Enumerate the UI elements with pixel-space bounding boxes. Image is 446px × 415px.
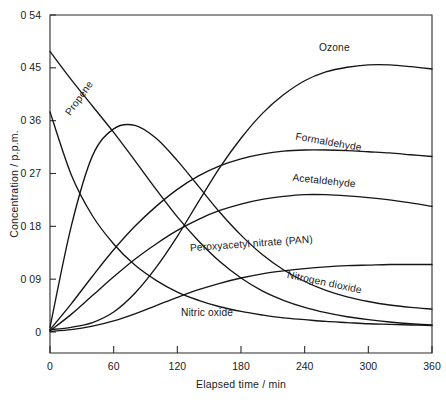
y-axis-title: Concentration / p.p.m. [8,130,20,238]
curve-label-peroxyacetyl-nitrate-pan: Peroxyacetyl nitrate (PAN) [190,234,314,254]
x-tick-label: 120 [169,360,187,372]
series-curve-peroxyacetyl-nitrate-pan [50,264,432,331]
series-curve-nitric-oxide [50,112,432,326]
x-tick-label: 0 [47,360,53,372]
chart-figure: 00 090 180 270 360 450 54060120180240300… [0,0,446,415]
y-tick-label: 0 27 [21,167,42,179]
series-curve-propene [50,51,432,325]
chart-plot-area: 00 090 180 270 360 450 54060120180240300… [0,0,446,415]
curve-label-nitrogen-dioxide: Nitrogen dioxide [286,269,363,296]
x-tick-label: 300 [360,360,378,372]
y-tick-label: 0 18 [21,220,42,232]
x-tick-label: 240 [296,360,314,372]
curve-labels-group: PropeneOzoneFormaldehydeAcetaldehydePero… [63,42,363,318]
y-tick-label: 0 54 [21,9,42,21]
x-tick-label: 60 [108,360,120,372]
series-curve-acetaldehyde [50,194,432,330]
data-series-group [50,51,432,331]
series-curve-ozone [50,65,432,330]
y-tick-label: 0 [35,326,41,338]
x-tick-label: 360 [423,360,441,372]
curve-label-acetaldehyde: Acetaldehyde [292,172,357,190]
y-tick-label: 0 09 [21,273,42,285]
curve-label-propene: Propene [63,79,95,118]
x-tick-label: 180 [232,360,250,372]
x-axis-title: Elapsed time / min [196,378,286,390]
curve-label-ozone: Ozone [319,42,350,53]
y-tick-label: 0 45 [21,61,42,73]
curve-label-nitric-oxide: Nitric oxide [181,307,233,318]
y-tick-label: 0 36 [21,114,42,126]
series-curve-nitrogen-dioxide [50,124,432,327]
